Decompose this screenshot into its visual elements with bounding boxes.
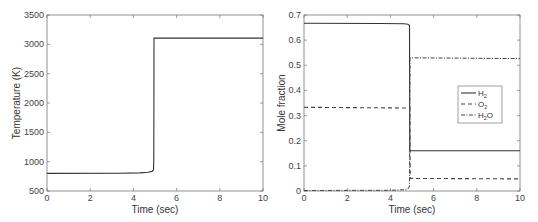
x-tick-label: 2 — [345, 193, 350, 203]
x-axis-label: Time (sec) — [389, 204, 436, 215]
x-axis-label: Time (sec) — [132, 204, 179, 215]
y-tick-label: 3500 — [24, 10, 44, 20]
x-tick-label: 6 — [431, 193, 436, 203]
y-tick-label: 2000 — [24, 98, 44, 108]
y-tick-label: 0.1 — [288, 161, 301, 171]
y-tick-label: 0 — [296, 186, 301, 196]
plot-area — [47, 15, 263, 191]
x-tick-label: 0 — [301, 193, 306, 203]
y-tick-label: 0.5 — [288, 60, 301, 70]
temperature-chart: 0 2 4 6 8 10 500 1000 1500 2000 2500 300… — [11, 0, 268, 215]
y-axis-label: Mole fraction — [276, 74, 287, 131]
x-tick-label: 4 — [388, 193, 393, 203]
y-tick-label: 0.2 — [288, 136, 301, 146]
y-tick-label: 500 — [29, 186, 44, 196]
y-tick-label: 0.7 — [288, 10, 301, 20]
x-tick-label: 0 — [44, 193, 49, 203]
x-tick-label: 8 — [474, 193, 479, 203]
legend: H2 O2 H2O — [458, 86, 502, 123]
y-tick-label: 1000 — [24, 157, 44, 167]
mole-fraction-chart: 0 2 4 6 8 10 0 0.1 0.2 0.3 0.4 0.5 0.6 0… — [276, 10, 525, 215]
y-tick-label: 0.4 — [288, 85, 301, 95]
y-tick-label: 0.6 — [288, 35, 301, 45]
x-tick-label: 10 — [515, 193, 525, 203]
x-tick-label: 10 — [258, 193, 268, 203]
y-tick-label: 2500 — [24, 69, 44, 79]
x-tick-label: 4 — [131, 193, 136, 203]
y-axis-label: Temperature (K) — [11, 67, 22, 139]
figure: 0 2 4 6 8 10 500 1000 1500 2000 2500 300… — [0, 0, 538, 222]
y-tick-label: 0.3 — [288, 111, 301, 121]
x-tick-label: 2 — [88, 193, 93, 203]
x-tick-label: 8 — [217, 193, 222, 203]
x-tick-label: 6 — [174, 193, 179, 203]
y-tick-label: 1500 — [24, 127, 44, 137]
y-tick-label: 3000 — [24, 39, 44, 49]
